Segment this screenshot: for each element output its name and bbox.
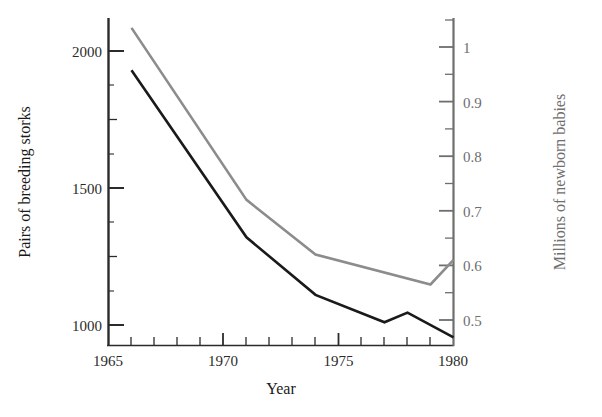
y2-tick-label-0-6: 0.6 <box>463 258 482 274</box>
y-tick-label-2000: 2000 <box>72 44 102 60</box>
y2-tick-label-0-8: 0.8 <box>463 149 482 165</box>
y2-tick-label-0-5: 0.5 <box>463 313 482 329</box>
x-axis-ticks <box>131 333 430 345</box>
stork-births-chart: 2000 1500 1000 1 0.9 0.8 0.7 0.6 0.5 <box>0 0 602 417</box>
y-axis-title-left: Pairs of breeding storks <box>16 106 34 258</box>
x-tick-labels: 1965 1970 1975 1980 <box>93 353 468 369</box>
y2-tick-label-0-7: 0.7 <box>463 204 482 220</box>
x-tick-label-1970: 1970 <box>208 353 238 369</box>
x-axis-title: Year <box>266 380 296 397</box>
right-axis-ticks <box>439 20 454 320</box>
y-tick-label-1500: 1500 <box>72 181 102 197</box>
series-breeding-storks <box>132 70 454 337</box>
y2-tick-label-0-9: 0.9 <box>463 95 482 111</box>
x-tick-label-1975: 1975 <box>324 353 354 369</box>
chart-svg: 2000 1500 1000 1 0.9 0.8 0.7 0.6 0.5 <box>0 0 602 417</box>
babies-line <box>132 28 454 285</box>
right-tick-labels: 1 0.9 0.8 0.7 0.6 0.5 <box>463 40 482 329</box>
y-axis-title-right: Millions of newborn babies <box>551 94 568 270</box>
storks-line <box>132 70 454 337</box>
x-tick-label-1980: 1980 <box>438 353 468 369</box>
y2-tick-label-1: 1 <box>463 40 471 56</box>
left-tick-labels: 2000 1500 1000 <box>72 44 102 334</box>
x-tick-label-1965: 1965 <box>93 353 123 369</box>
series-newborn-babies <box>132 28 454 285</box>
left-axis-ticks <box>108 51 124 325</box>
y-tick-label-1000: 1000 <box>72 318 102 334</box>
